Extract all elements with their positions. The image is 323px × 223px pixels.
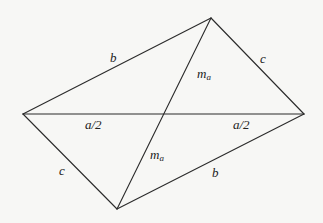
label-c-upper: c [260, 51, 266, 66]
edge-bottom-right-b [117, 114, 304, 209]
label-b-lower: b [212, 165, 219, 180]
edge-left-bottom-c [23, 114, 117, 209]
edge-top-right-c [211, 18, 304, 114]
label-a-half-left: a/2 [85, 117, 102, 132]
label-ma-upper-sub: a [206, 72, 211, 82]
label-a-half-right: a/2 [233, 117, 250, 132]
parallelogram-median-diagram: b c ma a/2 a/2 ma c b [0, 0, 323, 223]
label-ma-lower-sub: a [159, 153, 164, 163]
label-c-lower: c [59, 163, 65, 178]
label-ma-upper-main: m [197, 66, 206, 81]
label-ma-lower: ma [150, 147, 164, 163]
label-ma-lower-main: m [150, 147, 159, 162]
label-b-upper: b [110, 50, 117, 65]
label-ma-upper: ma [197, 66, 211, 82]
edge-top-left-b [23, 18, 211, 114]
